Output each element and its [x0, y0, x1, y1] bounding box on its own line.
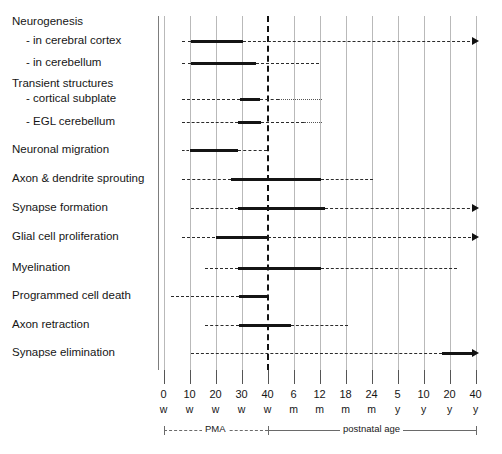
x-axis-tick-unit: y — [437, 403, 463, 415]
gridline — [294, 16, 295, 370]
timeline-dashed-extension — [261, 122, 304, 123]
gridline — [320, 16, 321, 370]
x-axis-tick — [424, 370, 425, 384]
axis-range-label: postnatal age — [340, 423, 403, 434]
category-label: - EGL cerebellum — [26, 115, 115, 128]
timeline-dashed-extension — [205, 325, 239, 326]
continues-arrow-icon — [472, 204, 479, 212]
timeline-bar — [216, 236, 268, 239]
x-axis-tick-number: 6 — [281, 388, 307, 400]
timeline-bar — [238, 267, 321, 270]
category-label: Axon retraction — [12, 318, 89, 331]
category-label: Synapse formation — [12, 201, 108, 214]
timeline-dashed-extension — [182, 63, 191, 64]
x-axis-tick-number: 5 — [385, 388, 411, 400]
gridline — [450, 16, 451, 370]
axis-range-label: PMA — [202, 423, 229, 434]
timeline-dashed-extension — [182, 150, 189, 151]
gridline — [190, 16, 191, 370]
timeline-dashed-extension — [182, 99, 240, 100]
continues-arrow-icon — [472, 233, 479, 241]
timeline-bar — [191, 62, 256, 65]
timeline-dashed-extension — [325, 208, 476, 209]
x-axis-tick-number: 12 — [307, 388, 333, 400]
x-axis-tick — [190, 370, 191, 384]
timeline-bar — [191, 40, 243, 43]
x-axis-tick — [398, 370, 399, 384]
x-axis-tick — [242, 370, 243, 384]
x-axis-tick-number: 10 — [411, 388, 437, 400]
timeline-bar — [238, 207, 325, 210]
timeline-dashed-extension — [260, 99, 279, 100]
gridline — [346, 16, 347, 370]
category-group-label: Neurogenesis — [12, 15, 83, 28]
category-label: Glial cell proliferation — [12, 230, 119, 243]
category-label: - in cerebellum — [26, 56, 101, 69]
timeline-dashed-extension — [182, 122, 237, 123]
gridline — [424, 16, 425, 370]
category-label: Axon & dendrite sprouting — [12, 172, 144, 185]
x-axis-tick-unit: y — [463, 403, 489, 415]
gridline — [372, 16, 373, 370]
timeline-dashed-extension — [238, 150, 268, 151]
x-axis-tick-unit: w — [177, 403, 203, 415]
x-axis-tick-unit: w — [151, 403, 177, 415]
x-axis-tick-unit: m — [359, 403, 385, 415]
timeline-dashed-extension — [256, 63, 320, 64]
axis-range-cap — [164, 426, 165, 435]
x-axis-tick-unit: w — [255, 403, 281, 415]
x-axis-tick-unit: m — [307, 403, 333, 415]
x-axis-tick-number: 30 — [229, 388, 255, 400]
x-axis-tick — [268, 370, 269, 384]
x-axis-tick-unit: w — [203, 403, 229, 415]
timeline-dashed-extension — [243, 41, 476, 42]
category-label: Synapse elimination — [12, 346, 115, 359]
continues-arrow-icon — [472, 37, 479, 45]
x-axis-tick-unit: y — [385, 403, 411, 415]
x-axis-tick — [450, 370, 451, 384]
category-label: - cortical subplate — [26, 92, 116, 105]
x-axis-tick-unit: w — [229, 403, 255, 415]
category-label: Programmed cell death — [12, 289, 131, 302]
timeline-bar — [442, 352, 476, 355]
timeline-bar — [240, 98, 260, 101]
timeline-dashed-extension — [182, 237, 215, 238]
timeline-dashed-extension — [182, 179, 231, 180]
timeline-bar — [239, 324, 291, 327]
x-axis-tick-unit: y — [411, 403, 437, 415]
x-axis-tick-unit: m — [281, 403, 307, 415]
x-axis-tick-number: 0 — [151, 388, 177, 400]
timeline-dashed-extension — [321, 268, 458, 269]
category-label: Myelination — [12, 261, 70, 274]
timeline-dashed-extension — [291, 325, 348, 326]
gridline — [398, 16, 399, 370]
x-axis-tick — [164, 370, 165, 384]
gridline — [164, 16, 165, 370]
x-axis-tick — [346, 370, 347, 384]
timeline-dashed-extension — [182, 41, 191, 42]
x-axis-tick-number: 10 — [177, 388, 203, 400]
gridline — [476, 16, 477, 370]
x-axis-tick — [216, 370, 217, 384]
axis-range-cap — [476, 426, 477, 435]
timeline-dotted-extension — [279, 99, 322, 100]
x-axis-tick-number: 18 — [333, 388, 359, 400]
category-group-label: Transient structures — [12, 77, 113, 90]
x-axis-tick-number: 40 — [255, 388, 281, 400]
timeline-dashed-extension — [268, 237, 476, 238]
timeline-bar — [231, 178, 321, 181]
gridline — [242, 16, 243, 370]
timeline-dashed-extension — [205, 268, 238, 269]
x-axis-tick — [476, 370, 477, 384]
timeline-bar — [239, 295, 268, 298]
timeline-dashed-extension — [191, 353, 442, 354]
x-axis-tick-unit: m — [333, 403, 359, 415]
x-axis-tick — [372, 370, 373, 384]
timeline-dashed-extension — [171, 296, 239, 297]
x-axis-tick-number: 24 — [359, 388, 385, 400]
timeline-bar — [238, 121, 261, 124]
x-axis-tick-number: 40 — [463, 388, 489, 400]
x-axis-tick — [294, 370, 295, 384]
timeline-dashed-extension — [191, 208, 238, 209]
category-label: Neuronal migration — [12, 143, 109, 156]
